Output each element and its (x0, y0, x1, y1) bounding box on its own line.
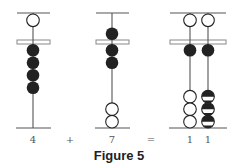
equals-sign: = (147, 134, 155, 145)
bead-top-half (202, 90, 215, 96)
abacus-eleven-lower-bead (184, 115, 197, 128)
abacus-eleven-upper-bead (202, 14, 215, 27)
plus-sign: + (66, 134, 74, 145)
abacus-four-upper-bead (27, 14, 40, 27)
abacus-four-lower-bead (27, 69, 40, 82)
abacus-figure: 4 + 7 = 1 1 Figure 5 (0, 0, 238, 165)
abacus-eleven-lower-bead (202, 103, 215, 116)
abacus-eleven-lower-bead (202, 115, 215, 128)
bead-top-half (202, 103, 215, 109)
label-eleven-ones: 1 (205, 134, 211, 145)
bead-top-half (202, 115, 215, 121)
abacus-eleven-lower-bead (184, 90, 197, 103)
figure-caption: Figure 5 (94, 148, 145, 163)
abacus-seven-upper-bead (106, 27, 119, 40)
abacus-eleven-lower-bead (202, 44, 215, 57)
abacus-seven-lower-bead (106, 44, 119, 57)
label-four: 4 (30, 134, 36, 145)
abacus-seven-lower-bead (106, 57, 119, 70)
label-seven: 7 (109, 134, 115, 145)
label-eleven-tens: 1 (187, 134, 193, 145)
abacus-eleven-upper-bead (184, 14, 197, 27)
abacus-eleven-lower-bead (202, 90, 215, 103)
abacus-eleven-lower-bead (184, 44, 197, 57)
abacus-seven-lower-bead (106, 115, 119, 128)
abacus-seven-lower-bead (106, 103, 119, 116)
abacus-eleven-lower-bead (184, 103, 197, 116)
abacus-four-lower-bead (27, 44, 40, 57)
abacus-four-lower-bead (27, 57, 40, 70)
abacus-four-lower-bead (27, 82, 40, 95)
abacus-eleven-beam (170, 40, 226, 44)
